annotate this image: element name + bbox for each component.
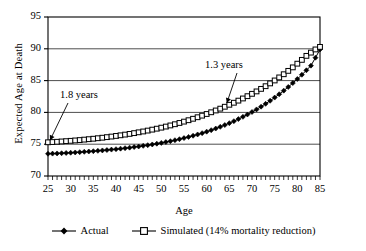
x-tick-label: 55 (172, 183, 196, 194)
annotation-arrow-1 (50, 103, 68, 140)
data-point-marker (59, 151, 64, 156)
data-point-marker (191, 133, 196, 138)
data-point-marker (50, 151, 55, 156)
data-point-marker (236, 117, 241, 122)
data-point-marker (195, 132, 200, 137)
y-tick-label: 70 (15, 169, 41, 180)
data-point-marker (123, 146, 128, 151)
x-tick-label: 75 (263, 183, 287, 194)
data-point-marker (159, 140, 164, 145)
data-point-marker (154, 141, 159, 146)
x-tick-label: 35 (81, 183, 105, 194)
x-tick-label: 50 (149, 183, 173, 194)
data-point-marker (318, 44, 323, 49)
data-point-marker (82, 149, 87, 154)
filled-diamond-marker-icon (51, 226, 77, 236)
data-point-marker (163, 140, 168, 145)
x-tick-label: 45 (127, 183, 151, 194)
data-point-marker (118, 146, 123, 151)
data-point-marker (209, 128, 214, 133)
data-point-marker (227, 121, 232, 126)
data-point-marker (186, 134, 191, 139)
data-point-marker (132, 145, 137, 150)
data-point-marker (177, 137, 182, 142)
x-tick-label: 40 (104, 183, 128, 194)
legend-item-actual: Actual (51, 225, 109, 236)
data-point-marker (114, 147, 119, 152)
data-point-marker (313, 55, 318, 60)
data-point-marker (254, 107, 259, 112)
data-point-marker (100, 148, 105, 153)
y-tick-label: 85 (15, 74, 41, 85)
data-point-marker (136, 144, 141, 149)
data-point-marker (182, 136, 187, 141)
annotation-label-1: 1.8 years (60, 89, 98, 100)
annotation-arrow-2 (226, 73, 237, 103)
open-square-marker-icon (131, 226, 157, 236)
x-tick-label: 70 (240, 183, 264, 194)
legend-item-simulated: Simulated (14% mortality reduction) (131, 225, 316, 236)
data-point-marker (168, 139, 173, 144)
legend-label-actual: Actual (81, 225, 109, 236)
data-point-marker (68, 150, 73, 155)
x-tick-label: 80 (285, 183, 309, 194)
data-point-marker (250, 110, 255, 115)
data-point-marker (127, 145, 132, 150)
data-point-marker (91, 149, 96, 154)
x-tick-label: 65 (217, 183, 241, 194)
data-point-marker (104, 148, 109, 153)
y-tick-label: 75 (15, 137, 41, 148)
data-point-marker (259, 104, 264, 109)
y-axis-title: Expected Age at Death (13, 14, 24, 174)
data-point-marker (95, 148, 100, 153)
y-tick-label: 95 (15, 10, 41, 21)
data-point-marker (77, 150, 82, 155)
annotation-label-2: 1.3 years (205, 59, 243, 70)
data-point-marker (231, 119, 236, 124)
data-point-marker (73, 150, 78, 155)
y-tick-label: 80 (15, 105, 41, 116)
x-tick-label: 25 (36, 183, 60, 194)
y-tick-label: 90 (15, 42, 41, 53)
data-point-marker (86, 149, 91, 154)
data-point-marker (204, 129, 209, 134)
data-point-marker (145, 143, 150, 148)
data-point-marker (240, 114, 245, 119)
data-point-marker (150, 142, 155, 147)
x-tick-label: 85 (308, 183, 332, 194)
chart-legend: Actual Simulated (14% mortality reductio… (0, 225, 366, 236)
data-point-marker (200, 131, 205, 136)
data-point-marker (55, 151, 60, 156)
x-tick-label: 30 (59, 183, 83, 194)
data-point-marker (109, 147, 114, 152)
chart-figure: Expected Age at Death Age 707580859095 2… (0, 0, 366, 251)
legend-label-simulated: Simulated (14% mortality reduction) (161, 225, 316, 236)
x-tick-label: 60 (195, 183, 219, 194)
data-point-marker (64, 150, 69, 155)
x-axis-title: Age (48, 205, 320, 216)
data-point-marker (172, 138, 177, 143)
